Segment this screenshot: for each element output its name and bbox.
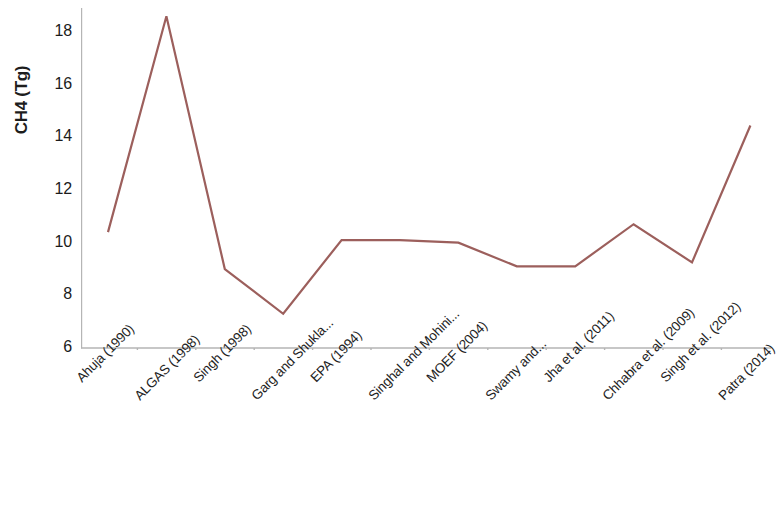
data-series-line bbox=[108, 16, 750, 314]
plot-area bbox=[81, 8, 771, 350]
y-axis-tick-label: 16 bbox=[38, 75, 72, 93]
line-chart-svg bbox=[81, 8, 771, 350]
y-axis-tick-labels: 681012141618 bbox=[30, 0, 72, 506]
chart-container: CH4 (Tg) 681012141618 Ahuja (1990)ALGAS … bbox=[0, 0, 776, 506]
y-axis-tick-label: 10 bbox=[38, 233, 72, 251]
y-axis-tick-label: 6 bbox=[38, 338, 72, 356]
y-axis-tick-label: 14 bbox=[38, 127, 72, 145]
y-axis-tick-label: 18 bbox=[38, 22, 72, 40]
y-axis-tick-label: 8 bbox=[38, 285, 72, 303]
x-axis-tick-label: Patra (2014) bbox=[716, 341, 776, 403]
y-axis-tick-label: 12 bbox=[38, 180, 72, 198]
